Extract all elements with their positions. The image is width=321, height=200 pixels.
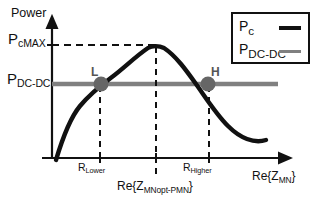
x-tick-rhigher-sub: Higher bbox=[191, 166, 212, 175]
x-tick-label-rlower: RLower bbox=[78, 162, 105, 173]
x-axis-title: Re{ZMN} bbox=[252, 170, 296, 182]
x-axis-title-prefix: Re{Z bbox=[252, 169, 279, 183]
x-tick-rlower-sub: Lower bbox=[86, 166, 106, 175]
x-axis-title-sub: MN bbox=[279, 175, 292, 185]
y-tick-pdcdc-prefix: P bbox=[7, 70, 17, 87]
x-tick-rhigher-prefix: R bbox=[183, 161, 191, 173]
y-tick-pdcdc-sub: DC-DC bbox=[17, 77, 50, 89]
x-tick-label-optimum: Re{ZMNopt-PMN} bbox=[117, 180, 193, 192]
x-axis-title-suffix: } bbox=[292, 169, 296, 183]
y-tick-label-pcmax: PcMAX bbox=[8, 31, 46, 46]
legend-swatch-pc bbox=[279, 26, 301, 30]
y-axis-title: Power bbox=[11, 7, 46, 20]
x-tick-optimum-sub: MNopt-PMN bbox=[144, 185, 189, 195]
legend-pdcdc-prefix: P bbox=[239, 41, 248, 57]
legend-pc-sub: c bbox=[248, 24, 254, 37]
legend-swatch-pdcdc bbox=[279, 50, 301, 53]
marker-label-high: H bbox=[211, 66, 220, 78]
chart-legend: Pc PDC-DC bbox=[231, 12, 310, 64]
marker-label-low: L bbox=[91, 66, 98, 78]
y-tick-label-pdcdc: PDC-DC bbox=[7, 71, 50, 86]
power-curve-chart: Power PcMAX PDC-DC RLower RHigher Re{ZMN… bbox=[0, 0, 321, 200]
x-tick-optimum-prefix: Re{Z bbox=[117, 179, 144, 193]
y-tick-pcmax-sub: cMAX bbox=[18, 37, 46, 49]
legend-pc-prefix: P bbox=[239, 18, 248, 34]
x-tick-rlower-prefix: R bbox=[78, 161, 86, 173]
y-tick-pcmax-prefix: P bbox=[8, 30, 18, 47]
legend-entry-pdcdc: PDC-DC bbox=[233, 39, 308, 63]
legend-entry-pc: Pc bbox=[233, 16, 308, 40]
legend-label-pc: Pc bbox=[239, 19, 254, 36]
x-tick-optimum-suffix: } bbox=[189, 179, 193, 193]
x-tick-label-rhigher: RHigher bbox=[183, 162, 212, 173]
